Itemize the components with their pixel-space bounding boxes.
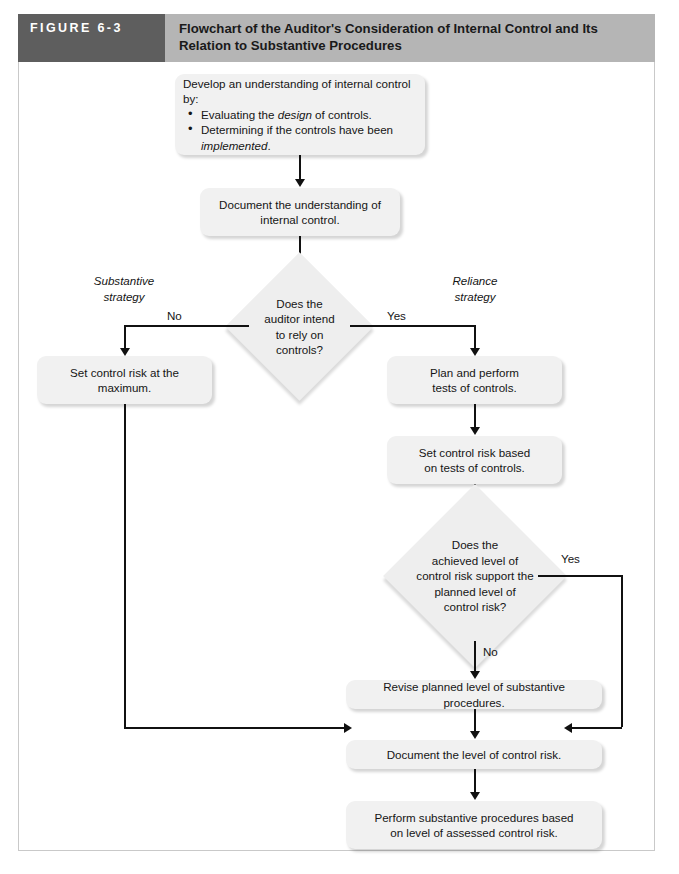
arrow-decision2-yes-into-document-level (564, 723, 572, 733)
figure-number-label: FIGURE 6-3 (18, 14, 165, 62)
substantive-strategy-line-2: strategy (57, 289, 191, 305)
figure-title-line-2: Relation to Substantive Procedures (179, 37, 645, 54)
arrow-plan-to-set-risk-tests (470, 427, 480, 435)
arrow-develop-to-document (295, 179, 305, 187)
bullet-2-emphasis: implemented (201, 139, 267, 152)
bullet-2-post: . (267, 139, 270, 152)
node-set-risk-max-line-2: maximum. (70, 380, 179, 396)
node-revise-planned-level: Revise planned level of substantive proc… (346, 680, 602, 709)
node-document-level-line-1: Document the level of control risk. (387, 747, 562, 763)
connector-decision1-yes (350, 325, 475, 327)
node-plan-perform-tests: Plan and perform tests of controls. (387, 356, 562, 404)
substantive-strategy-line-1: Substantive (57, 273, 191, 289)
decision2-line-4: planned level of (388, 584, 563, 600)
figure-title-line-1: Flowchart of the Auditor's Consideration… (179, 20, 645, 37)
connector-decision2-yes-drop (621, 575, 623, 727)
node-document-understanding-line-2: internal control. (219, 212, 381, 228)
label-substantive-strategy: Substantive strategy (57, 273, 191, 304)
node-perform-substantive-line-1: Perform substantive procedures based (374, 810, 573, 826)
node-document-understanding-line-1: Document the understanding of (219, 197, 381, 213)
bullet-1-post: of controls. (312, 108, 372, 121)
connector-decision2-yes-return (572, 727, 622, 729)
node-set-control-risk-tests: Set control risk based on tests of contr… (387, 436, 562, 484)
node-develop-bullet-2: Determining if the controls have been im… (199, 122, 417, 153)
connector-decision2-no (474, 641, 476, 673)
flowchart-canvas: Develop an understanding of internal con… (19, 62, 654, 850)
connector-revise-to-document-level (474, 709, 476, 733)
connector-decision1-no-drop (124, 325, 126, 350)
arrow-decision1-yes (470, 348, 480, 356)
node-revise-planned-line-1: Revise planned level of substantive proc… (354, 679, 594, 710)
node-develop-lead: Develop an understanding of internal con… (183, 76, 417, 107)
decision2-line-5: control risk? (388, 599, 563, 615)
node-set-risk-max-line-1: Set control risk at the (70, 365, 179, 381)
decision-rely-on-controls: Does the auditor intend to rely on contr… (247, 274, 352, 379)
figure-title: Flowchart of the Auditor's Consideration… (165, 14, 655, 62)
connector-plan-to-set-risk-tests (474, 404, 476, 429)
node-develop-bullets: Evaluating the design of controls. Deter… (183, 107, 417, 154)
bullet-1-pre: Evaluating the (201, 108, 278, 121)
arrow-decision2-no (470, 671, 480, 679)
edge-label-yes-1: Yes (387, 309, 406, 322)
decision-achieved-level-text: Does the achieved level of control risk … (388, 537, 563, 615)
node-set-control-risk-max: Set control risk at the maximum. (37, 356, 212, 404)
node-develop-understanding: Develop an understanding of internal con… (175, 74, 425, 155)
arrow-decision1-no (120, 348, 130, 356)
figure-page: FIGURE 6-3 Flowchart of the Auditor's Co… (0, 0, 679, 874)
decision1-line-4: controls? (212, 342, 387, 358)
reliance-strategy-line-2: strategy (408, 289, 542, 305)
decision2-line-1: Does the (388, 537, 563, 553)
connector-set-risk-max-to-document-level (124, 404, 126, 728)
decision-achieved-level: Does the achieved level of control risk … (410, 511, 540, 641)
arrow-document-level-to-perform (470, 792, 480, 800)
edge-label-yes-2: Yes (561, 552, 580, 565)
connector-document-level-to-perform (474, 769, 476, 794)
node-plan-perform-line-2: tests of controls. (430, 380, 519, 396)
node-plan-perform-line-1: Plan and perform (430, 365, 519, 381)
node-document-level-of-control-risk: Document the level of control risk. (346, 740, 602, 769)
edge-label-no-2: No (483, 645, 498, 658)
decision2-line-2: achieved level of (388, 553, 563, 569)
connector-develop-to-document (299, 155, 301, 181)
edge-label-no-1: No (167, 309, 182, 322)
node-perform-substantive-procedures: Perform substantive procedures based on … (346, 801, 602, 849)
node-perform-substantive-line-2: on level of assessed control risk. (374, 825, 573, 841)
bullet-2-pre: Determining if the controls have been (201, 123, 393, 136)
node-develop-bullet-1: Evaluating the design of controls. (199, 107, 417, 123)
decision2-line-3: control risk support the (388, 568, 563, 584)
node-set-risk-tests-line-2: on tests of controls. (419, 460, 530, 476)
arrow-left-join-document-level (344, 723, 352, 733)
connector-decision1-no (125, 325, 249, 327)
figure-header: FIGURE 6-3 Flowchart of the Auditor's Co… (18, 14, 655, 62)
label-reliance-strategy: Reliance strategy (408, 273, 542, 304)
connector-left-join-document-level (124, 727, 346, 729)
node-document-understanding: Document the understanding of internal c… (200, 188, 400, 236)
node-set-risk-tests-line-1: Set control risk based (419, 445, 530, 461)
arrow-revise-to-document-level (470, 731, 480, 739)
reliance-strategy-line-1: Reliance (408, 273, 542, 289)
decision1-line-1: Does the (212, 296, 387, 312)
bullet-1-emphasis: design (278, 108, 312, 121)
connector-decision2-yes (538, 575, 623, 577)
decision1-line-3: to rely on (212, 327, 387, 343)
connector-decision1-yes-drop (474, 325, 476, 350)
